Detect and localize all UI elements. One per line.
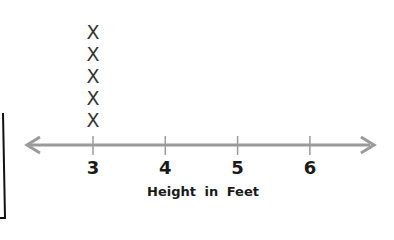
x-axis-label: Height in Feet — [143, 183, 263, 201]
x-mark: X — [83, 110, 103, 130]
x-mark: X — [83, 44, 103, 64]
x-mark: X — [83, 22, 103, 42]
x-mark: X — [83, 66, 103, 86]
tick-label: 3 — [78, 158, 108, 178]
tick-label: 6 — [295, 158, 325, 178]
x-mark: X — [83, 88, 103, 108]
frame-edge — [0, 113, 5, 218]
tick-label: 4 — [150, 158, 180, 178]
tick-label: 5 — [223, 158, 253, 178]
